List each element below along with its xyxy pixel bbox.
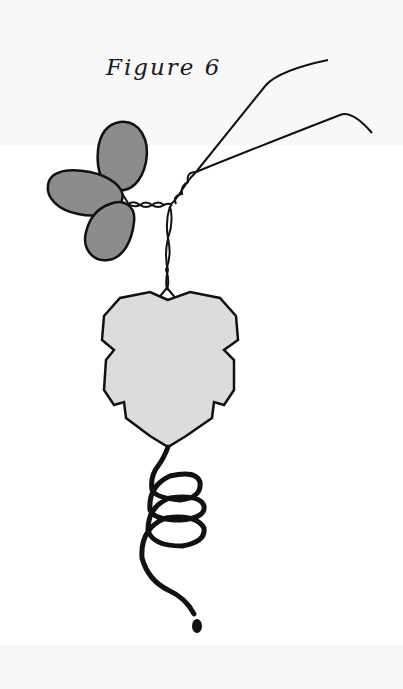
wire-leaf-illustration (0, 0, 403, 689)
wire-end-knot (192, 619, 202, 633)
three-petal-leaves (48, 122, 147, 260)
wire-ends (196, 60, 372, 172)
large-leaf-charm (102, 292, 238, 447)
coiled-wire-spiral (142, 447, 204, 614)
